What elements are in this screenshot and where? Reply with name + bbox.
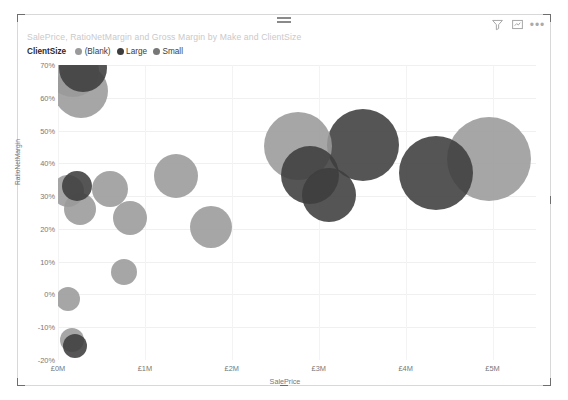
focus-mode-icon[interactable]	[511, 18, 524, 31]
x-axis-tick-label: £0M	[51, 364, 65, 373]
legend-item-label: (Blank)	[85, 47, 111, 56]
drag-handle[interactable]	[277, 17, 291, 26]
data-bubble[interactable]	[111, 259, 137, 285]
resize-handle-bottom-left[interactable]	[17, 378, 25, 386]
y-axis-tick-label: 70%	[40, 61, 55, 70]
data-bubble[interactable]	[62, 171, 92, 201]
data-bubble[interactable]	[113, 201, 147, 235]
gridline-vertical	[406, 65, 407, 360]
chart-title: SalePrice, RatioNetMargin and Gross Marg…	[27, 32, 301, 42]
plot-area[interactable]	[58, 65, 536, 360]
x-axis-tick-label: £2M	[225, 364, 239, 373]
data-bubble[interactable]	[190, 206, 232, 248]
y-axis-tick-label: 40%	[40, 159, 55, 168]
gridline-horizontal	[58, 327, 536, 328]
y-axis-tick-label: 10%	[40, 257, 55, 266]
x-axis-tick-label: £3M	[312, 364, 326, 373]
y-axis-ticks: 70%60%50%40%30%20%10%0%-10%-20%	[18, 65, 55, 360]
resize-handle-right[interactable]	[550, 196, 551, 204]
legend-title: ClientSize	[27, 47, 66, 56]
legend-swatch	[117, 48, 124, 55]
x-axis-tick-label: £1M	[138, 364, 152, 373]
legend[interactable]: ClientSize (Blank) Large Small	[27, 47, 183, 56]
legend-item-blank[interactable]: (Blank)	[75, 47, 110, 56]
gridline-horizontal	[58, 98, 536, 99]
y-axis-tick-label: 30%	[40, 192, 55, 201]
resize-handle-bottom[interactable]	[280, 385, 288, 386]
resize-handle-bottom-right[interactable]	[543, 378, 551, 386]
drag-handle-line	[277, 21, 291, 23]
x-axis-tick-label: £4M	[398, 364, 412, 373]
gridline-vertical	[493, 65, 494, 360]
legend-item-small[interactable]: Small	[153, 47, 183, 56]
y-axis-tick-label: -10%	[38, 323, 55, 332]
y-axis-tick-label: 20%	[40, 224, 55, 233]
data-bubble[interactable]	[154, 154, 198, 198]
y-axis-tick-label: 50%	[40, 126, 55, 135]
data-bubble[interactable]	[92, 171, 128, 207]
x-axis-ticks: £0M£1M£2M£3M£4M£5M	[58, 364, 536, 376]
resize-handle-top-left[interactable]	[17, 14, 25, 22]
y-axis-tick-label: 0%	[44, 290, 55, 299]
data-bubble[interactable]	[399, 136, 473, 210]
data-bubble[interactable]	[58, 287, 80, 311]
data-bubble[interactable]	[302, 168, 356, 222]
legend-swatch	[75, 48, 82, 55]
legend-item-label: Small	[163, 47, 183, 56]
legend-swatch	[153, 48, 160, 55]
plot-canvas[interactable]	[58, 65, 536, 360]
gridline-horizontal	[58, 65, 536, 66]
legend-item-label: Large	[126, 47, 147, 56]
x-axis-tick-label: £5M	[485, 364, 499, 373]
gridline-vertical	[58, 65, 59, 360]
drag-handle-line	[277, 17, 291, 19]
gridline-vertical	[232, 65, 233, 360]
chart-visual-container[interactable]: ••• SalePrice, RatioNetMargin and Gross …	[17, 14, 551, 386]
gridline-horizontal	[58, 294, 536, 295]
visual-actions-toolbar[interactable]: •••	[491, 18, 544, 31]
resize-handle-top-right[interactable]	[543, 14, 551, 22]
legend-item-large[interactable]: Large	[117, 47, 147, 56]
data-bubble[interactable]	[63, 334, 87, 358]
filter-icon[interactable]	[491, 18, 504, 31]
y-axis-tick-label: 60%	[40, 93, 55, 102]
